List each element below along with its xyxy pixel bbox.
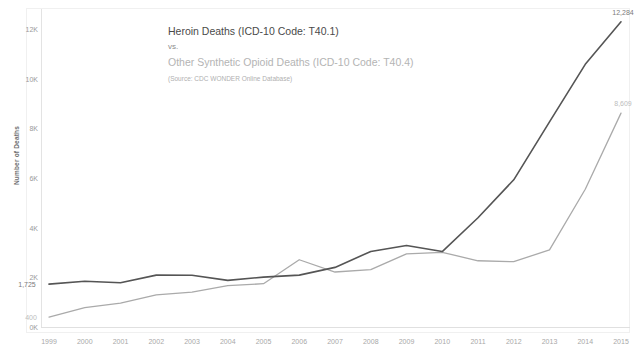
x-axis-tick: 2005 [256, 338, 272, 345]
x-axis-tick: 2004 [220, 338, 236, 345]
x-axis-line [41, 327, 630, 328]
x-axis-tick: 2010 [434, 338, 450, 345]
x-axis-tick: 2002 [148, 338, 164, 345]
y-axis-tick: 8K [0, 125, 38, 132]
data-label-synthetic-end: 8,609 [614, 100, 632, 107]
x-axis-tick: 2012 [506, 338, 522, 345]
chart-page: Number of Deaths 0K2K4K6K8K10K12K Heroin… [0, 0, 638, 361]
series-line-heroin [49, 22, 621, 284]
x-axis-tick: 2013 [542, 338, 558, 345]
y-axis-tick-group: 0K2K4K6K8K10K12K [0, 0, 38, 361]
y-axis-tick: 10K [0, 75, 38, 82]
x-axis-tick: 2011 [470, 338, 485, 345]
y-axis-tick: 12K [0, 25, 38, 32]
x-axis-tick: 2006 [291, 338, 307, 345]
x-axis-tick: 2014 [577, 338, 593, 345]
x-axis-tick: 2007 [327, 338, 343, 345]
x-axis-tick: 2009 [399, 338, 415, 345]
y-axis-tick: 4K [0, 224, 38, 231]
chart-plot-area [41, 9, 629, 327]
data-label-synthetic-start: 400 [25, 314, 37, 321]
y-axis-tick: 0K [0, 324, 38, 331]
x-axis-tick: 2001 [113, 338, 129, 345]
x-axis-tick: 2003 [184, 338, 200, 345]
x-axis-tick: 2015 [613, 338, 629, 345]
x-axis-tick: 1999 [41, 338, 57, 345]
y-axis-tick: 6K [0, 174, 38, 181]
x-axis-tick: 2000 [77, 338, 93, 345]
x-axis-tick: 2008 [363, 338, 379, 345]
data-label-heroin-start: 1,725 [18, 281, 36, 288]
data-label-heroin-end: 12,284 [612, 8, 633, 15]
